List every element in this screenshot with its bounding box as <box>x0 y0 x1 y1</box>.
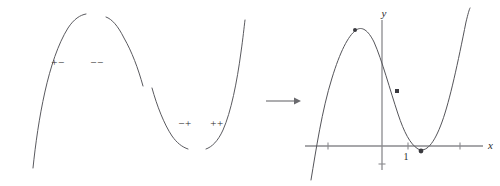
y-axis-label: y <box>381 7 387 19</box>
local-maximum-point <box>353 28 357 32</box>
derivative-sign-chart-figure: +− −− −+ ++ 1 x y <box>0 0 500 186</box>
graph-panel: 1 x y <box>305 7 493 180</box>
left-falling-arc <box>106 17 143 86</box>
sign-label-plus-plus: ++ <box>210 117 223 129</box>
middle-rising-arc <box>206 20 245 149</box>
sign-label-minus-minus: −− <box>90 56 103 68</box>
middle-panel-concave-up: −+ ++ <box>152 20 245 149</box>
local-minimum-point <box>419 149 424 154</box>
sign-label-plus-minus: +− <box>51 56 64 68</box>
implies-arrow <box>266 98 301 105</box>
left-panel-concave-down: +− −− <box>33 14 143 168</box>
x-tick-label-one: 1 <box>404 151 409 162</box>
x-axis-label: x <box>487 139 493 151</box>
cubic-curve <box>311 8 470 180</box>
sign-label-minus-plus: −+ <box>178 117 191 129</box>
arrow-head <box>294 98 301 105</box>
inflection-point <box>395 89 399 93</box>
left-rising-arc <box>33 14 86 168</box>
